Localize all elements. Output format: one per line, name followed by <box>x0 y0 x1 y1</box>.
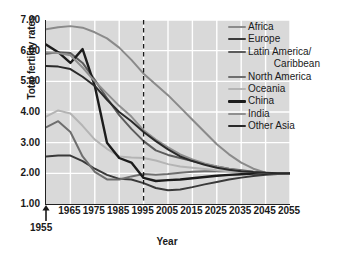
x-tick-2045: 2045 <box>253 206 275 216</box>
legend-swatch-icon <box>228 108 248 120</box>
x-tick-2035: 2035 <box>229 206 251 216</box>
legend-swatch-icon <box>228 71 248 83</box>
y-tick-1.00: 1.00 <box>8 199 40 209</box>
legend-item-latin-america[interactable]: Latin America/ <box>228 46 339 58</box>
x-tick-2055: 2055 <box>278 206 300 216</box>
y-tick-4.00: 4.00 <box>8 107 40 117</box>
x-axis-title: Year <box>45 236 289 247</box>
legend-label-caribbean: Caribbean <box>228 58 320 70</box>
legend-item-india[interactable]: India <box>228 108 339 120</box>
legend-swatch-icon <box>228 120 248 132</box>
fertility-rate-line-chart: Total fertility rates 1.002.003.004.005.… <box>0 0 339 258</box>
legend-item-china[interactable]: China <box>228 95 339 107</box>
legend-label-india: India <box>248 108 270 120</box>
legend-item-other-asia[interactable]: Other Asia <box>228 120 339 132</box>
legend-swatch-icon <box>228 46 248 58</box>
legend-swatch-icon <box>228 33 248 45</box>
y-tick-7.00: 7.00 <box>8 15 40 25</box>
y-tick-3.00: 3.00 <box>8 138 40 148</box>
legend-label-other-asia: Other Asia <box>248 120 295 132</box>
x-tick-1965: 1965 <box>58 206 80 216</box>
legend-label-oceania: Oceania <box>248 83 285 95</box>
y-tick-6.00: 6.00 <box>8 46 40 56</box>
x-tick-2015: 2015 <box>180 206 202 216</box>
legend-item-north-america[interactable]: North America <box>228 71 339 83</box>
legend-label-china: China <box>248 95 274 107</box>
x-tick-2025: 2025 <box>205 206 227 216</box>
legend-label-europe: Europe <box>248 33 280 45</box>
legend-item-africa[interactable]: Africa <box>228 21 339 33</box>
x-tick-1975: 1975 <box>83 206 105 216</box>
x-tick-1995: 1995 <box>131 206 153 216</box>
origin-year-label: 1955 <box>30 222 52 233</box>
legend-label-africa: Africa <box>248 21 274 33</box>
chart-legend: AfricaEuropeLatin America/CaribbeanNorth… <box>228 21 339 133</box>
y-tick-2.00: 2.00 <box>8 168 40 178</box>
legend-item-europe[interactable]: Europe <box>228 33 339 45</box>
x-axis-tick-labels: 1965197519851995200520152025203520452055 <box>45 206 289 220</box>
legend-swatch-icon <box>228 83 248 95</box>
legend-label-latin-america: Latin America/ <box>248 46 311 58</box>
x-tick-1985: 1985 <box>107 206 129 216</box>
origin-arrow-icon <box>39 205 53 221</box>
y-tick-5.00: 5.00 <box>8 76 40 86</box>
x-tick-2005: 2005 <box>156 206 178 216</box>
legend-swatch-icon <box>228 95 248 107</box>
legend-item-oceania[interactable]: Oceania <box>228 83 339 95</box>
legend-swatch-icon <box>228 21 248 33</box>
y-axis-tick-labels: 1.002.003.004.005.006.007.00 <box>6 0 40 258</box>
legend-label-north-america: North America <box>248 71 311 83</box>
